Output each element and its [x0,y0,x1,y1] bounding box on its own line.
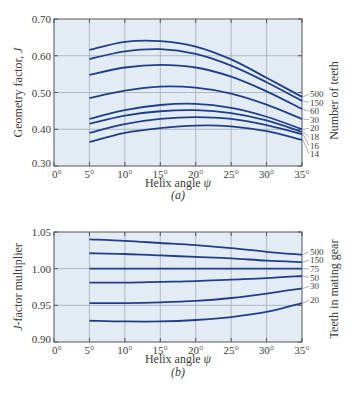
x-tick-label: 10° [117,168,132,180]
y-tick-label: 0.95 [32,299,52,311]
y-tick-label: 0.70 [32,13,52,25]
y-tick-label: 1.00 [32,263,52,275]
x-tick-label: 30° [259,344,274,356]
y-axis-label: J-factor multiplier [11,243,25,331]
y-tick-label: 0.40 [32,123,52,135]
x-tick-label: 35° [294,168,309,180]
x-tick-label: 10° [117,344,132,356]
figure: 0°5°10°15°20°25°30°35°0.300.400.500.600.… [0,0,354,399]
x-tick-label: 25° [223,344,238,356]
x-axis-label: Helix angle ψ [145,352,212,366]
y-tick-label: 1.05 [32,226,52,238]
leader-line [303,276,309,278]
y-tick-label: 0.30 [32,157,52,169]
leader-line [303,94,309,97]
leader-line [303,140,309,154]
right-axis-label: Number of teeth [327,61,341,140]
leader-line [303,119,309,120]
x-tick-label: 0° [52,344,62,356]
leader-line [303,260,309,262]
y-axis-label: Geometry factor, J [11,47,25,137]
series-label-20: 20 [310,295,320,305]
x-tick-label: 5° [84,344,94,356]
x-tick-label: 35° [294,344,309,356]
panel-a-geometry-factor: 0°5°10°15°20°25°30°35°0.300.400.500.600.… [11,13,341,202]
x-tick-label: 0° [52,168,62,180]
series-label-30: 30 [310,281,320,291]
y-tick-label: 0.50 [32,87,52,99]
x-tick-label: 25° [223,168,238,180]
leader-line [303,286,309,288]
panel-caption: (a) [171,188,185,202]
panel-b-j-factor-multiplier: 0°5°10°15°20°25°30°35°0.900.951.001.0550… [11,226,341,379]
series-label-14: 14 [310,149,320,159]
leader-line [303,134,309,145]
leader-line [303,109,309,111]
leader-line [303,252,309,255]
y-tick-label: 0.60 [32,50,52,62]
chart-canvas: 0°5°10°15°20°25°30°35°0.300.400.500.600.… [0,0,354,399]
x-tick-label: 30° [259,168,274,180]
plot-area [54,232,302,342]
x-tick-label: 5° [84,168,94,180]
right-axis-label: Teeth in mating gear [327,240,341,339]
panel-caption: (b) [171,365,185,379]
leader-line [303,101,309,103]
y-tick-label: 0.90 [32,333,52,345]
leader-line [303,128,309,129]
leader-line [303,300,309,303]
